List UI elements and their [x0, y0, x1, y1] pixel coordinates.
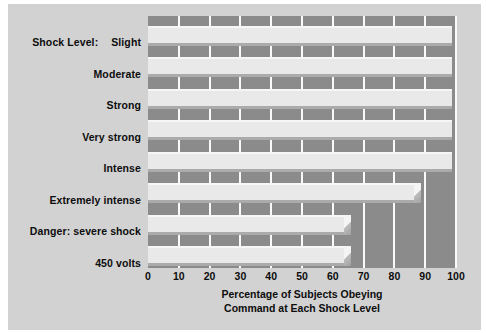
- gridline-70: [363, 16, 365, 268]
- x-tick-0: 0: [145, 270, 151, 282]
- x-tick-90: 90: [419, 270, 431, 282]
- bar-highlight: [148, 57, 452, 59]
- x-tick-100: 100: [447, 270, 465, 282]
- bar-shadow: [148, 232, 344, 235]
- category-label-text: Danger: severe shock: [30, 225, 141, 237]
- category-axis-labels: Shock Level:SlightModerateStrongVery str…: [8, 16, 145, 268]
- bar-highlight: [148, 152, 452, 154]
- x-axis-title-line1: Percentage of Subjects Obeying: [148, 288, 456, 302]
- category-label-text: 450 volts: [95, 257, 141, 269]
- bar-shadow: [148, 106, 452, 109]
- category-label-text: Intense: [104, 162, 141, 174]
- x-axis-title: Percentage of Subjects Obeying Command a…: [148, 288, 456, 315]
- bar-shadow: [148, 137, 452, 140]
- bar-shadow: [148, 200, 414, 203]
- category-label-text: Extremely intense: [49, 194, 141, 206]
- category-label-text: Strong: [107, 99, 141, 111]
- x-tick-20: 20: [204, 270, 216, 282]
- bar-end-cap: [344, 215, 351, 235]
- bar-highlight: [148, 183, 414, 185]
- category-label-text: Very strong: [82, 131, 141, 143]
- x-tick-60: 60: [327, 270, 339, 282]
- category-label-text: Slight: [111, 36, 141, 48]
- gridline-90: [424, 16, 426, 268]
- bar-end-cap: [414, 183, 421, 203]
- x-axis-tick-labels: 0102030405060708090100: [148, 270, 456, 284]
- bar-shadow: [148, 263, 344, 266]
- x-axis-title-line2: Command at Each Shock Level: [148, 302, 456, 316]
- bar-highlight: [148, 215, 344, 217]
- category-label-text: Moderate: [94, 68, 141, 80]
- chart-figure: Shock Level:SlightModerateStrongVery str…: [0, 0, 486, 333]
- bar-highlight: [148, 120, 452, 122]
- x-tick-40: 40: [265, 270, 277, 282]
- x-tick-30: 30: [235, 270, 247, 282]
- gridline-80: [393, 16, 395, 268]
- bar-highlight: [148, 89, 452, 91]
- gridline-100: [455, 16, 457, 268]
- plot-area: [148, 16, 456, 268]
- x-tick-50: 50: [296, 270, 308, 282]
- x-tick-10: 10: [173, 270, 185, 282]
- bar-shadow: [148, 43, 452, 46]
- bar-shadow: [148, 74, 452, 77]
- bar-highlight: [148, 26, 452, 28]
- x-tick-70: 70: [358, 270, 370, 282]
- shock-level-axis-title: Shock Level:: [32, 36, 98, 48]
- x-tick-80: 80: [389, 270, 401, 282]
- bar-shadow: [148, 169, 452, 172]
- bar-highlight: [148, 246, 344, 248]
- bar-end-cap: [344, 246, 351, 266]
